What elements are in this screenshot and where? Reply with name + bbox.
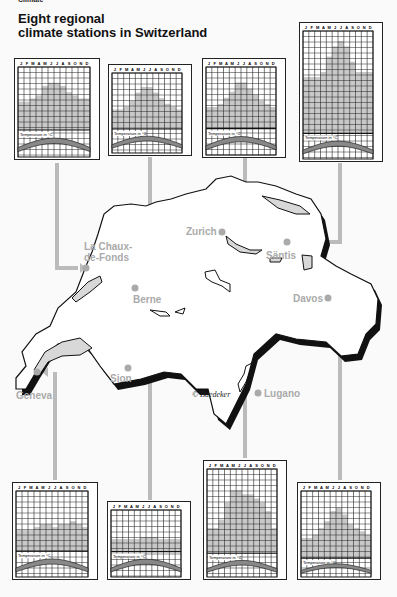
svg-text:J: J: [142, 504, 144, 509]
station-label-zurich: Zurich: [186, 226, 217, 237]
svg-text:M: M: [41, 485, 45, 490]
svg-text:O: O: [166, 67, 169, 72]
svg-text:M: M: [29, 485, 33, 490]
svg-text:M: M: [328, 25, 332, 30]
svg-text:O: O: [165, 504, 168, 509]
svg-text:J: J: [334, 25, 336, 30]
svg-text:A: A: [320, 485, 323, 490]
svg-text:A: A: [38, 61, 41, 66]
climate-chart-sion: JFMAMJJASONDTemperature in °C: [107, 501, 191, 580]
svg-text:D: D: [369, 25, 372, 30]
copyright-notice: © Baedeker: [192, 390, 230, 399]
svg-text:Temperature in °C: Temperature in °C: [20, 132, 52, 137]
svg-text:F: F: [26, 61, 29, 66]
svg-text:A: A: [36, 485, 39, 490]
station-label-sion: Sion: [110, 373, 132, 384]
station-label-geneva: Geneva: [16, 390, 52, 401]
svg-text:F: F: [120, 67, 123, 72]
svg-text:M: M: [219, 61, 223, 66]
svg-text:S: S: [68, 61, 71, 66]
svg-text:S: S: [254, 61, 257, 66]
climate-chart-la-chaux-de-fonds: JFMAMJJASONDTemperature in °C: [14, 58, 100, 160]
svg-text:Temperature in °C: Temperature in °C: [305, 135, 337, 140]
svg-text:A: A: [131, 67, 134, 72]
svg-text:J: J: [305, 25, 307, 30]
svg-text:Temperature in °C: Temperature in °C: [209, 555, 241, 560]
svg-text:A: A: [345, 25, 348, 30]
svg-text:J: J: [332, 485, 334, 490]
svg-text:M: M: [326, 485, 330, 490]
chart-graphic: JFMAMJJASONDTemperature in °C: [15, 59, 101, 161]
svg-text:J: J: [148, 504, 150, 509]
svg-text:M: M: [125, 67, 129, 72]
svg-text:J: J: [338, 485, 340, 490]
svg-text:J: J: [149, 67, 151, 72]
svg-text:O: O: [260, 61, 263, 66]
svg-text:J: J: [18, 485, 20, 490]
chart-graphic: JFMAMJJASONDTemperature in °C: [298, 483, 382, 581]
svg-text:J: J: [209, 463, 211, 468]
svg-text:D: D: [178, 67, 181, 72]
svg-text:A: A: [225, 61, 228, 66]
svg-text:J: J: [238, 463, 240, 468]
chart-graphic: JFMAMJJASONDTemperature in °C: [108, 502, 192, 581]
svg-text:M: M: [232, 463, 236, 468]
svg-text:S: S: [255, 463, 258, 468]
svg-text:N: N: [78, 485, 81, 490]
svg-text:F: F: [309, 485, 312, 490]
svg-text:S: S: [351, 25, 354, 30]
svg-text:J: J: [56, 61, 58, 66]
svg-text:M: M: [124, 504, 128, 509]
svg-text:D: D: [84, 485, 87, 490]
svg-text:A: A: [322, 25, 325, 30]
svg-text:F: F: [214, 61, 217, 66]
svg-text:J: J: [244, 463, 246, 468]
station-label-berne: Berne: [133, 294, 161, 305]
svg-text:M: M: [137, 67, 141, 72]
climate-chart-geneva: JFMAMJJASONDTemperature in °C: [12, 482, 98, 580]
svg-text:A: A: [343, 485, 346, 490]
svg-text:M: M: [231, 61, 235, 66]
climate-chart-zurich: JFMAMJJASONDTemperature in °C: [202, 58, 286, 158]
climate-chart-davos: JFMAMJJASONDTemperature in °C: [297, 482, 381, 580]
svg-text:O: O: [73, 61, 76, 66]
station-label-davos: Davos: [293, 293, 323, 304]
station-label-lugano: Lugano: [264, 388, 300, 399]
svg-text:A: A: [62, 61, 65, 66]
chart-graphic: JFMAMJJASONDTemperature in °C: [300, 23, 384, 163]
svg-text:N: N: [361, 485, 364, 490]
svg-text:F: F: [119, 504, 122, 509]
svg-text:J: J: [340, 25, 342, 30]
svg-text:F: F: [311, 25, 314, 30]
svg-text:D: D: [273, 463, 276, 468]
svg-text:N: N: [172, 67, 175, 72]
svg-text:F: F: [215, 463, 218, 468]
svg-text:J: J: [50, 61, 52, 66]
svg-text:J: J: [113, 504, 115, 509]
svg-text:O: O: [357, 25, 360, 30]
svg-text:O: O: [261, 463, 264, 468]
svg-text:A: A: [249, 463, 252, 468]
svg-text:N: N: [266, 61, 269, 66]
svg-text:M: M: [316, 25, 320, 30]
svg-text:J: J: [54, 485, 56, 490]
climate-chart-lugano: JFMAMJJASONDTemperature in °C: [203, 460, 287, 580]
svg-text:J: J: [48, 485, 50, 490]
svg-text:A: A: [154, 67, 157, 72]
svg-text:A: A: [60, 485, 63, 490]
svg-text:A: A: [153, 504, 156, 509]
svg-text:D: D: [86, 61, 89, 66]
svg-text:Temperature in °C: Temperature in °C: [113, 554, 145, 559]
chart-graphic: JFMAMJJASONDTemperature in °C: [109, 65, 193, 157]
svg-text:N: N: [171, 504, 174, 509]
climate-chart-santis: JFMAMJJASONDTemperature in °C: [299, 22, 383, 162]
svg-text:J: J: [114, 67, 116, 72]
svg-text:J: J: [208, 61, 210, 66]
svg-text:M: M: [31, 61, 35, 66]
svg-text:A: A: [248, 61, 251, 66]
svg-text:D: D: [272, 61, 275, 66]
svg-text:F: F: [24, 485, 27, 490]
svg-text:S: S: [160, 67, 163, 72]
svg-text:M: M: [220, 463, 224, 468]
svg-text:S: S: [66, 485, 69, 490]
